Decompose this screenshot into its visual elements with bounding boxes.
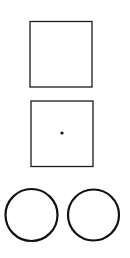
diagram-canvas <box>0 0 130 258</box>
left-circle <box>6 189 58 241</box>
empty-square <box>30 22 92 88</box>
center-dot <box>60 131 63 134</box>
right-circle <box>68 190 119 241</box>
